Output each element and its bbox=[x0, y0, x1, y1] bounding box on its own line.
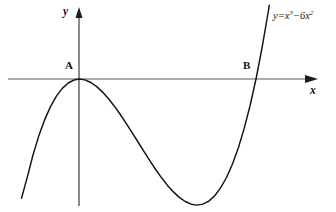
x-axis-arrowhead bbox=[305, 75, 318, 83]
point-label-b: B bbox=[243, 60, 251, 71]
point-label-a: A bbox=[65, 60, 73, 71]
x-axis-label: x bbox=[310, 85, 316, 97]
y-axis-arrowhead bbox=[76, 7, 83, 18]
equation-part-1: y=x bbox=[273, 10, 289, 21]
graph-canvas bbox=[0, 0, 336, 212]
y-axis-label: y bbox=[63, 6, 68, 18]
equation-exponent-2: 2 bbox=[310, 9, 313, 16]
curve-equation-label: y=x3−6x2 bbox=[273, 11, 313, 22]
cubic-function-figure: A B y x y=x3−6x2 bbox=[0, 0, 336, 212]
cubic-curve bbox=[22, 5, 270, 205]
equation-part-2: −6x bbox=[293, 10, 310, 21]
